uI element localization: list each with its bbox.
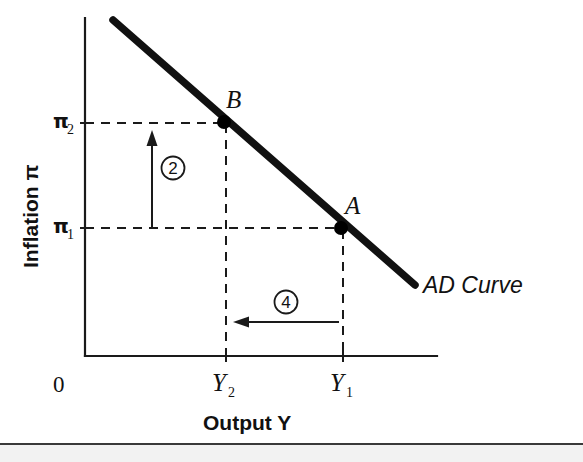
y2-subscript: 2: [228, 385, 235, 400]
ad-curve-label: AD Curve: [421, 272, 523, 298]
pi2-subscript: 2: [67, 122, 74, 137]
x-axis-title: Output Y: [203, 411, 291, 434]
point-label-b: B: [226, 86, 241, 113]
tick-marks: [80, 123, 343, 362]
step-two-badge-label: 2: [168, 159, 177, 178]
ad-curve-figure: 2 4 B A AD Curve π 2 π 1 Y 2 Y 1: [0, 0, 583, 462]
pi1-subscript: 1: [67, 227, 74, 242]
step-four-arrow-group: 4: [233, 291, 339, 328]
point-label-a: A: [343, 192, 361, 219]
y2-base: Y: [212, 369, 229, 396]
y-tick-label-pi2: π 2: [53, 109, 74, 137]
step-four-badge-label: 4: [281, 293, 290, 312]
y1-subscript: 1: [346, 385, 353, 400]
data-point-a: [334, 221, 348, 235]
x-tick-label-y1: Y 1: [330, 369, 353, 400]
origin-label: 0: [53, 372, 65, 397]
ad-curve-line: [113, 20, 415, 285]
guide-lines: [85, 123, 343, 355]
axis-group: [85, 18, 437, 356]
y1-base: Y: [330, 369, 347, 396]
data-point-b: [217, 115, 231, 129]
y-axis-title: Inflation π: [19, 164, 42, 268]
footer-band: [0, 445, 583, 462]
step-two-arrow-head: [147, 130, 158, 146]
y-tick-label-pi1: π 1: [53, 214, 74, 242]
x-tick-label-y2: Y 2: [212, 369, 235, 400]
ad-curve-diagram: 2 4 B A AD Curve π 2 π 1 Y 2 Y 1: [0, 0, 583, 462]
step-two-arrow-group: 2: [147, 130, 185, 228]
step-four-arrow-head: [233, 317, 249, 328]
